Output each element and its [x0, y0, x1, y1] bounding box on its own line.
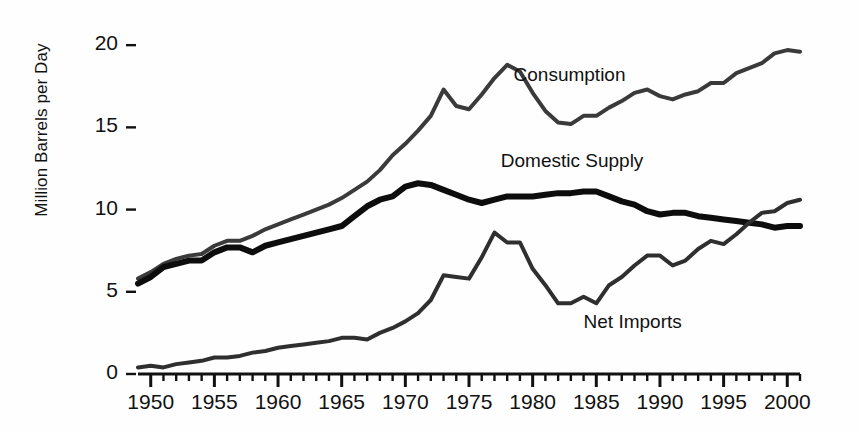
y-tick-label-0: 0	[72, 360, 118, 384]
y-tick-label-5: 5	[72, 278, 118, 302]
y-tick-label-20: 20	[72, 31, 118, 55]
y-axis-ticks	[126, 45, 136, 374]
series-line-net-imports	[138, 200, 800, 368]
x-axis-major-ticks	[151, 374, 788, 387]
y-tick-label-10: 10	[72, 196, 118, 220]
series-line-domestic-supply	[138, 183, 800, 283]
series-label-domestic-supply: Domestic Supply	[501, 150, 644, 172]
chart-plot-area	[0, 0, 858, 432]
series-label-net-imports: Net Imports	[584, 311, 682, 333]
series-line-consumption	[138, 50, 800, 279]
x-tick-label-2000: 2000	[749, 390, 825, 414]
series-label-consumption: Consumption	[514, 64, 626, 86]
oil-trends-line-chart: Million Barrels per Day 05101520 1950195…	[0, 0, 858, 432]
data-series-group	[138, 50, 800, 367]
y-tick-label-15: 15	[72, 113, 118, 137]
